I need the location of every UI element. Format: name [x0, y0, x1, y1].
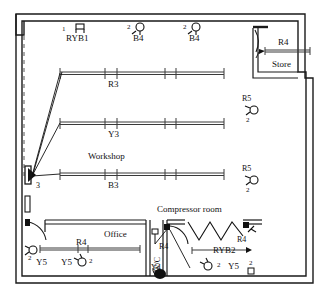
corner-outlet-symbol [248, 268, 254, 274]
office-door-hinge [25, 219, 30, 226]
compressor-door-hinge [164, 224, 170, 230]
circuit-label-r4-store: R4 [278, 38, 289, 47]
folding-door-zigzag [188, 222, 243, 240]
circuit-qty-ryb1: 1 [62, 26, 66, 33]
circuit-qty-y5-office-b: 2 [89, 258, 93, 265]
circuit-label-ryb1: RYB1 [66, 34, 89, 43]
circuit-label-ryb2: RYB2 [213, 246, 236, 255]
circuit-label-y5-office-a: Y5 [36, 258, 47, 267]
circuit-label-b4-right: B4 [189, 34, 200, 43]
fixture-r4-store [265, 47, 310, 55]
circuit-label-y4: Y4 [151, 264, 161, 272]
circuit-qty-y5-office-a: 2 [28, 255, 32, 262]
circuit-label-r4-wc: R4 [159, 243, 168, 251]
floor-plan: Workshop Store Office W/C Compressor roo… [0, 0, 323, 297]
floor-plan-drawing [0, 0, 323, 297]
room-label-store: Store [272, 60, 291, 69]
circuit-label-y5-compressor: Y5 [228, 262, 239, 271]
office-door-swing [28, 222, 46, 240]
left-wall-opening [25, 196, 30, 212]
switch-label-3: 3 [36, 182, 40, 190]
room-label-workshop: Workshop [88, 152, 125, 161]
circuit-label-b3: B3 [108, 181, 119, 190]
circuit-label-r5-upper: R5 [242, 95, 251, 103]
circuit-qty-b4-right: 2 [183, 24, 187, 31]
circuit-label-b4-left: B4 [133, 34, 144, 43]
circuit-label-r4-compressor: R4 [237, 236, 246, 244]
circuit-label-r5-lower: R5 [242, 165, 251, 173]
room-label-compressor-room: Compressor room [157, 205, 222, 214]
inner-wall-outline [22, 21, 306, 276]
compressor-circuit-line [170, 230, 190, 268]
circuit-lines-from-switch-3 [32, 72, 62, 176]
fixture-row-b3 [60, 169, 224, 180]
fixture-r4-office [40, 245, 140, 253]
circuit-label-y3: Y3 [108, 130, 119, 139]
ryb2-arrow [246, 247, 252, 253]
circuit-label-y5-office-b: Y5 [61, 258, 72, 267]
symbol-y5-office-b [74, 254, 86, 266]
symbol-r5-lower [245, 176, 258, 185]
circuit-label-r3: R3 [108, 80, 119, 89]
circuit-label-r4-office: R4 [76, 238, 87, 247]
compressor-right-node [243, 222, 249, 228]
circuit-qty-b4-left: 2 [127, 24, 131, 31]
symbol-r4-compressor [248, 226, 256, 232]
fixture-row-r3 [60, 68, 224, 79]
fixture-row-y3 [60, 118, 224, 129]
circuit-qty-r5-lower: 2 [246, 187, 250, 194]
store-switch-node [259, 49, 265, 54]
circuit-qty-corner: 2 [249, 260, 253, 267]
symbol-r5-upper [245, 106, 258, 115]
circuit-qty-r5-upper: 2 [246, 117, 250, 124]
room-label-office: Office [104, 230, 127, 239]
symbol-ryb1 [76, 24, 84, 33]
wall-notch-top-left [16, 14, 24, 35]
symbol-y5-compressor [200, 258, 212, 270]
circuit-qty-y5-compressor: 2 [217, 262, 221, 269]
